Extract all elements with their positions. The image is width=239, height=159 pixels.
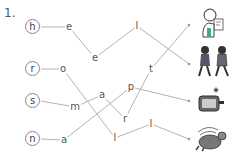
path-letter: p — [127, 82, 135, 92]
path-letter: r — [122, 114, 128, 124]
path-letter: e — [91, 53, 99, 63]
exercise-number: 1. — [4, 6, 15, 20]
start-letter-r: r — [25, 61, 40, 76]
girl-with-paper-icon — [200, 6, 226, 38]
path-letter: l — [113, 133, 118, 143]
path-letter: a — [98, 90, 106, 100]
path-h — [41, 26, 189, 64]
end-dot — [188, 100, 191, 103]
path-letter: l — [135, 21, 140, 31]
path-letter: t — [148, 64, 154, 74]
end-dot — [188, 63, 191, 66]
path-letter: m — [69, 102, 81, 112]
start-letter-n: n — [25, 131, 40, 146]
path-letter: a — [60, 135, 68, 145]
path-letter: e — [65, 22, 73, 32]
path-letter: l — [149, 119, 154, 129]
path-letter: o — [59, 64, 67, 74]
rolling-cat-icon — [194, 124, 230, 152]
steaming-box-icon — [196, 86, 226, 114]
start-letter-h: h — [25, 19, 40, 34]
maze-exercise: 1. h r s n e e l o l l m a r t a p — [0, 0, 239, 159]
walking-children-icon — [196, 44, 232, 78]
end-dot — [188, 138, 191, 141]
start-letter-s: s — [25, 93, 40, 108]
path-r — [41, 69, 189, 139]
end-dot — [188, 24, 191, 27]
